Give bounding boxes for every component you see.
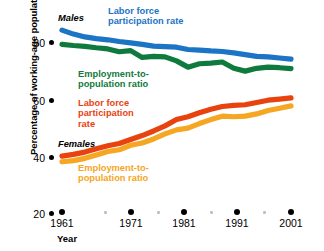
- legend-males-lfpr-line2: participation rate: [108, 16, 183, 26]
- legend-females-lfpr-line2: participation: [78, 108, 134, 118]
- x-minor-tick-1986: [210, 211, 213, 214]
- x-tick-1991-dot: [234, 209, 240, 215]
- x-tick-1991-label: 1991: [220, 217, 254, 229]
- x-minor-tick-1996: [263, 211, 266, 214]
- legend-males-epr-line2: population ratio: [78, 79, 149, 89]
- group-label-males: Males: [58, 13, 84, 23]
- x-tick-1981-label: 1981: [167, 217, 201, 229]
- plot-area: [0, 0, 324, 251]
- legend-males-labor-force-participation-rate: Labor force participation rate: [108, 6, 183, 27]
- x-tick-1961-label: 1961: [45, 217, 79, 229]
- x-tick-2001-label: 2001: [274, 217, 308, 229]
- legend-females-labor-force-participation-rate: Labor force participation rate: [78, 98, 134, 129]
- legend-males-epr-line1: Employment-to-: [78, 69, 149, 79]
- legend-females-lfpr-line1: Labor force: [78, 98, 134, 108]
- x-tick-1971-label: 1971: [114, 217, 148, 229]
- legend-males-employment-to-population-ratio: Employment-to- population ratio: [78, 69, 149, 90]
- legend-females-lfpr-line3: rate: [78, 119, 134, 129]
- x-tick-1981-dot: [181, 209, 187, 215]
- group-label-females: Females: [58, 139, 95, 149]
- legend-females-employment-to-population-ratio: Employment-to- population ratio: [78, 163, 149, 184]
- x-tick-2001-dot: [288, 209, 294, 215]
- x-minor-tick-1966: [104, 211, 107, 214]
- x-tick-1971-dot: [128, 209, 134, 215]
- x-minor-tick-1976: [157, 211, 160, 214]
- chart-container: Percentage of working-age population 80 …: [0, 0, 324, 251]
- x-axis-title: Year: [57, 233, 77, 244]
- legend-females-epr-line1: Employment-to-: [78, 163, 149, 173]
- x-tick-1961-dot: [59, 209, 65, 215]
- line-males-labor-force-participation-rate: [62, 30, 291, 59]
- legend-females-epr-line2: population ratio: [78, 173, 149, 183]
- legend-males-lfpr-line1: Labor force: [108, 6, 183, 16]
